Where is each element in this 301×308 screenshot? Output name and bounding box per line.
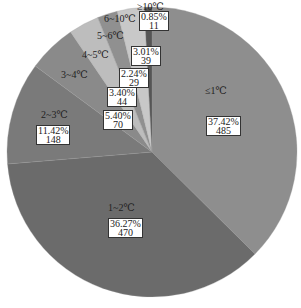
count-le1: 485 — [208, 126, 239, 135]
count-4-5: 44 — [109, 97, 135, 106]
value-box-6-10: 3.01% 39 — [131, 46, 161, 66]
label-le1: ≤1℃ — [205, 86, 227, 96]
value-box-le1: 37.42% 485 — [206, 116, 241, 136]
count-2-3: 148 — [38, 135, 68, 144]
label-6-10: 6~10℃ — [104, 14, 136, 24]
count-3-4: 70 — [105, 120, 131, 129]
count-6-10: 39 — [133, 56, 159, 65]
count-5-6: 29 — [121, 78, 147, 87]
count-ge10: 11 — [141, 21, 167, 30]
value-box-ge10: 0.85% 11 — [139, 11, 169, 31]
label-2-3: 2~3℃ — [41, 110, 68, 120]
label-3-4: 3~4℃ — [61, 70, 88, 80]
value-box-2-3: 11.42% 148 — [36, 125, 70, 145]
label-1-2: 1~2℃ — [108, 203, 135, 213]
value-box-3-4: 5.40% 70 — [103, 110, 133, 130]
count-1-2: 470 — [110, 228, 141, 237]
value-box-4-5: 3.40% 44 — [107, 87, 137, 107]
label-4-5: 4~5℃ — [82, 50, 109, 60]
value-box-5-6: 2.24% 29 — [119, 68, 149, 88]
label-5-6: 5~6℃ — [97, 31, 124, 41]
value-box-1-2: 36.27% 470 — [108, 218, 143, 238]
